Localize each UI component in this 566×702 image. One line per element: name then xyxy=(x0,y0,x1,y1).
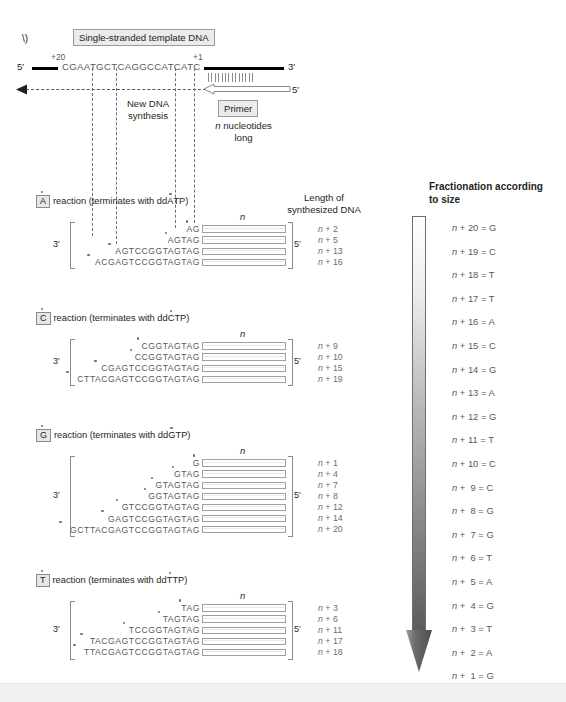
fractionation-title: Fractionation according to size xyxy=(429,180,566,206)
product-row: GTAGTAG xyxy=(0,480,286,489)
product-sequence: TTACGAGTCCGGTAGTAG xyxy=(84,647,200,657)
terminator-dot-icon xyxy=(172,466,174,468)
new-dna-synthesis-label: New DNA synthesis xyxy=(122,98,174,122)
product-row: TTACGAGTCCGGTAGTAG xyxy=(0,647,286,656)
primer-rectangle xyxy=(202,638,286,645)
terminator-dot-icon xyxy=(151,477,153,479)
reaction-title-prefix: reaction (terminates with dd xyxy=(54,430,168,440)
product-row: GAGTCCGGTAGTAG xyxy=(0,514,286,523)
ladder-band-label: n + 20 = G xyxy=(452,222,496,233)
ladder-band-label: n + 9 = C xyxy=(452,482,493,493)
reaction-letter-box-c: C xyxy=(36,312,51,325)
product-sequence: AGTAG xyxy=(168,235,200,245)
terminator-dot-icon xyxy=(108,243,110,245)
product-sequence: ACGAGTCCGGTAGTAG xyxy=(95,257,200,267)
dideoxy-dot-icon xyxy=(170,427,172,429)
terminator-dot-icon xyxy=(73,644,75,646)
reaction-title-base: G xyxy=(168,430,175,440)
product-length: n + 18 xyxy=(318,647,343,657)
reaction-title-a: Areaction (terminates with ddATP) xyxy=(36,195,188,208)
terminator-dot-icon xyxy=(59,521,61,523)
product-sequence: GCTTACGAGTCCGGTAGTAG xyxy=(70,525,200,535)
primer-rectangle xyxy=(202,376,286,383)
product-length: n + 11 xyxy=(318,625,342,635)
reaction-title-prefix: reaction (terminates with dd xyxy=(53,575,167,585)
reaction-title-suffix: TP) xyxy=(172,575,187,585)
primer-rectangle xyxy=(202,236,286,243)
product-sequence: CTTACGAGTCCGGTAGTAG xyxy=(77,374,200,384)
product-length: n + 5 xyxy=(318,235,338,245)
template-sequence: CGAATGCTCAGGCCATCATC xyxy=(62,61,201,72)
product-sequence: GGTAGTAG xyxy=(148,491,200,501)
product-row: CCGGTAGTAG xyxy=(0,352,286,361)
product-row: GTAG xyxy=(0,469,286,478)
product-sequence: AGTCCGGTAGTAG xyxy=(115,246,200,256)
reaction-title-prefix: reaction (terminates with dd xyxy=(54,313,168,323)
ladder-band-label: n + 12 = G xyxy=(452,411,496,422)
terminator-dot-icon xyxy=(165,232,167,234)
ladder-band-label: n + 10 = C xyxy=(452,458,496,469)
ladder-band-label: n + 1 = G xyxy=(452,670,494,681)
primer-rectangle xyxy=(202,482,286,489)
dideoxy-dot-icon xyxy=(170,310,172,312)
n-marker-c: n xyxy=(240,328,245,339)
product-sequence: TAGTAG xyxy=(163,614,200,624)
terminator-dot-icon xyxy=(137,337,139,339)
terminator-dot-icon xyxy=(94,360,96,362)
product-length: n + 20 xyxy=(318,524,343,534)
product-sequence: CCGGTAGTAG xyxy=(135,352,200,362)
product-length: n + 10 xyxy=(318,352,343,362)
primer-five-prime: 5′ xyxy=(292,84,299,96)
product-row: ACGAGTCCGGTAGTAG xyxy=(0,257,286,266)
dideoxy-dot-icon xyxy=(169,572,171,574)
reaction-letter-dot-icon xyxy=(41,191,43,193)
product-row: CGGTAGTAG xyxy=(0,341,286,350)
right-bracket-c xyxy=(288,339,293,386)
primer-rectangle xyxy=(202,470,286,477)
reaction-letter-box-a: A xyxy=(36,195,50,208)
length-header-line2: synthesized DNA xyxy=(272,204,376,216)
right-bracket-g xyxy=(288,456,293,537)
product-sequence: TCCGGTAGTAG xyxy=(129,625,200,635)
primer-rectangle xyxy=(202,504,286,511)
product-sequence: TAG xyxy=(181,603,200,613)
product-sequence: GTAG xyxy=(174,469,200,479)
figure-canvas: \) Single-stranded template DNA +20 +1 5… xyxy=(0,0,566,702)
five-prime-label-a: 5′ xyxy=(294,239,301,249)
reaction-title-suffix: TP) xyxy=(173,196,188,206)
product-row: CGAGTCCGGTAGTAG xyxy=(0,363,286,372)
primer-rectangle xyxy=(202,248,286,255)
terminator-dot-icon xyxy=(179,599,181,601)
terminator-dot-icon xyxy=(186,220,188,222)
primer-note-line2: long xyxy=(196,132,291,144)
ladder-band-label: n + 4 = G xyxy=(452,600,494,611)
ladder-band-label: n + 18 = T xyxy=(452,269,495,280)
n-marker-a: n xyxy=(240,211,245,222)
ladder-band-label: n + 6 = T xyxy=(452,552,492,563)
product-row: AG xyxy=(0,224,286,233)
primer-note-rest: nucleotides xyxy=(221,120,272,131)
ladder-band-label: n + 14 = G xyxy=(452,364,496,375)
template-three-prime: 3′ xyxy=(288,61,295,73)
ladder-band-label: n + 11 = T xyxy=(452,434,494,445)
fractionation-title-line1: Fractionation according xyxy=(429,180,566,193)
reaction-title-g: Greaction (terminates with ddGTP) xyxy=(36,429,190,442)
product-length: n + 8 xyxy=(318,491,338,501)
five-prime-label-t: 5′ xyxy=(294,624,301,634)
reaction-title-base: C xyxy=(168,313,175,323)
product-length: n + 15 xyxy=(318,363,343,373)
product-row: GCTTACGAGTCCGGTAGTAG xyxy=(0,525,286,534)
ladder-band-label: n + 5 = A xyxy=(452,576,492,587)
product-length: n + 19 xyxy=(318,374,343,384)
primer-rectangle xyxy=(202,353,286,360)
product-length: n + 4 xyxy=(318,469,338,479)
product-row: TAG xyxy=(0,603,286,612)
product-row: AGTAG xyxy=(0,235,286,244)
product-sequence: CGGTAGTAG xyxy=(141,341,200,351)
product-length: n + 3 xyxy=(318,603,338,613)
reaction-letter-box-g: G xyxy=(36,429,51,442)
primer-rectangle xyxy=(202,493,286,500)
reaction-letter-dot-icon xyxy=(41,308,43,310)
length-header-line1: Length of xyxy=(272,192,376,204)
terminator-dot-icon xyxy=(158,611,160,613)
